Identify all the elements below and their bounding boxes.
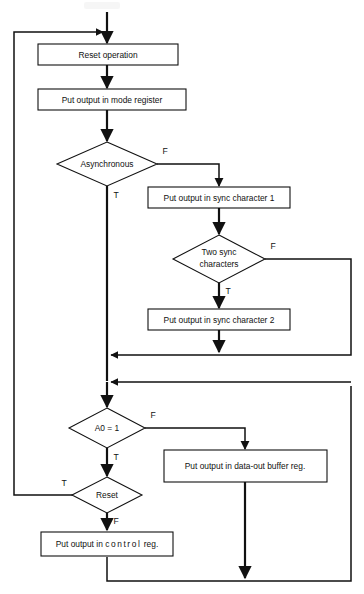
node-control-reg: Put output in control reg. [41, 532, 173, 556]
node-mode-register: Put output in mode register [38, 89, 186, 110]
node-sync-character-1: Put output in sync character 1 [148, 187, 290, 208]
edge-async-false [157, 164, 219, 186]
node-label-sync-character-1: Put output in sync character 1 [164, 193, 275, 203]
node-label-mode-register: Put output in mode register [62, 95, 163, 105]
node-two-sync-characters: Two sync characters F T [173, 235, 276, 296]
branch-label-reset-false: F [113, 516, 118, 526]
node-label-reset: Reset [96, 490, 119, 500]
branch-label-twosync-true: T [225, 286, 231, 296]
node-a0-equals-1: A0 = 1 F T [69, 408, 156, 462]
control-reg-spaced: control [105, 539, 141, 549]
branch-label-a0-false: F [150, 410, 155, 420]
branch-label-reset-true: T [61, 478, 67, 488]
node-label-control-reg: Put output in control reg. [56, 539, 158, 549]
node-label-sync-character-2: Put output in sync character 2 [164, 315, 275, 325]
node-data-out-buffer-reg: Put output in data-out buffer reg. [164, 450, 327, 482]
node-reset: Reset T F [61, 477, 142, 526]
branch-label-async-false: F [162, 146, 167, 156]
node-label-reset-operation: Reset operation [78, 50, 137, 60]
node-label-two-sync-line2: characters [199, 259, 238, 269]
node-sync-character-2: Put output in sync character 2 [148, 309, 290, 330]
flowchart-canvas: Reset operation Put output in mode regis… [0, 0, 364, 594]
node-label-data-out-buffer-reg: Put output in data-out buffer reg. [185, 461, 305, 471]
edge-a0-false [145, 428, 245, 449]
control-reg-prefix: Put output in [56, 539, 105, 549]
node-reset-operation: Reset operation [38, 44, 178, 65]
branch-label-async-true: T [113, 190, 119, 200]
node-label-a0-equals-1: A0 = 1 [95, 423, 120, 433]
flowchart-svg: Reset operation Put output in mode regis… [0, 0, 364, 594]
node-label-two-sync-line1: Two sync [202, 247, 237, 257]
node-label-asynchronous: Asynchronous [80, 159, 133, 169]
branch-label-twosync-false: F [270, 241, 275, 251]
control-reg-suffix: reg. [141, 539, 158, 549]
branch-label-a0-true: T [113, 452, 119, 462]
